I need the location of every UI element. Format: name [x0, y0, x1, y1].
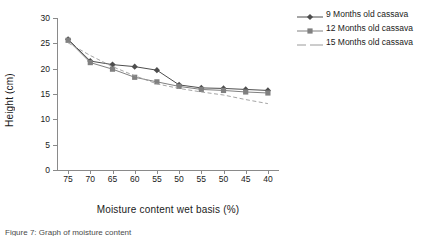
legend-label: 12 Months old cassava	[326, 24, 413, 33]
y-tick-label: 30	[41, 14, 50, 23]
data-point-marker	[265, 90, 270, 95]
chart-legend: 9 Months old cassava12 Months old cassav…	[297, 8, 421, 50]
x-tick-label: 70	[86, 175, 95, 184]
x-tick-label: 75	[63, 175, 72, 184]
data-point-marker	[154, 67, 160, 73]
data-point-marker	[243, 89, 248, 94]
y-tick-label: 5	[45, 140, 50, 149]
data-point-marker	[221, 88, 226, 93]
x-tick-label: 40	[263, 175, 272, 184]
data-point-marker	[199, 87, 204, 92]
series-line-2	[68, 43, 268, 104]
plot-area: 051015202530 75706560555055504540	[57, 18, 279, 170]
y-tick-label: 15	[41, 90, 50, 99]
y-tick-label: 0	[45, 166, 50, 175]
y-tick-mark	[53, 170, 57, 171]
figure-caption: Figure 7: Graph of moisture content	[5, 228, 225, 236]
x-tick-label: 50	[174, 175, 183, 184]
chart-figure: Height (cm) 051015202530 757065605550555…	[0, 0, 423, 236]
y-axis-title: Height (cm)	[2, 50, 16, 150]
data-point-marker	[307, 13, 313, 19]
legend-item-1[interactable]: 12 Months old cassava	[297, 22, 421, 35]
series-line-1	[68, 40, 268, 93]
data-point-marker	[88, 60, 93, 65]
data-point-marker	[132, 64, 138, 70]
y-tick-label: 20	[41, 64, 50, 73]
x-axis-title: Moisture content wet basis (%)	[57, 204, 279, 215]
data-point-marker	[66, 38, 71, 43]
x-tick-label: 55	[197, 175, 206, 184]
x-tick-label: 65	[108, 175, 117, 184]
y-tick-label: 10	[41, 115, 50, 124]
legend-swatch-diamond-icon	[297, 9, 323, 21]
data-point-marker	[307, 28, 312, 33]
x-tick-label: 45	[241, 175, 250, 184]
legend-label: 15 Months old cassava	[326, 38, 413, 47]
x-tick-label: 50	[219, 175, 228, 184]
legend-label: 9 Months old cassava	[326, 10, 408, 19]
legend-swatch-dashed-line	[297, 37, 323, 49]
x-tick-label: 55	[152, 175, 161, 184]
series-layer	[57, 18, 279, 170]
x-tick-label: 60	[130, 175, 139, 184]
y-tick-label: 25	[41, 39, 50, 48]
legend-item-0[interactable]: 9 Months old cassava	[297, 8, 421, 21]
legend-item-2[interactable]: 15 Months old cassava	[297, 36, 421, 49]
legend-swatch-square-icon	[297, 23, 323, 35]
